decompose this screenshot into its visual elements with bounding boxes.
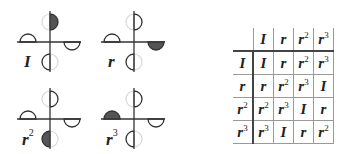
table-row: r3r3Irr2 <box>233 121 334 144</box>
table-cell: r <box>314 98 334 121</box>
figure-label: r3 <box>106 129 118 150</box>
table-cell: r2 <box>294 28 314 51</box>
table-cell <box>233 28 253 51</box>
table-cell: r2 <box>274 75 294 98</box>
table-cell: r <box>274 28 294 51</box>
table-cell: r2 <box>233 98 253 121</box>
table-row: r2r2r3Ir <box>233 98 334 121</box>
table-cell: I <box>253 28 274 51</box>
table-cell: I <box>274 121 294 144</box>
figure-r: r <box>84 0 174 77</box>
figure-label: r <box>108 52 115 72</box>
table-cell: r <box>294 121 314 144</box>
table-cell: r2 <box>294 51 314 75</box>
table-cell: r2 <box>253 98 274 121</box>
figure-label: r2 <box>22 129 34 150</box>
table-cell: r3 <box>274 98 294 121</box>
table-header-row: Irr2r3 <box>233 28 334 51</box>
table-cell: I <box>253 51 274 75</box>
table-cell: r3 <box>233 121 253 144</box>
figure-r3: r3 <box>84 77 174 154</box>
table-cell: r3 <box>253 121 274 144</box>
figure-label: I <box>24 52 31 72</box>
figure-r2: r2 <box>0 77 90 154</box>
table-cell: I <box>314 75 334 98</box>
table-row: rrr2r3I <box>233 75 334 98</box>
table-row: IIrr2r3 <box>233 51 334 75</box>
table-cell: r3 <box>314 28 334 51</box>
table-cell: r <box>274 51 294 75</box>
table-cell: r3 <box>294 75 314 98</box>
figure-I: I <box>0 0 90 77</box>
table-cell: I <box>233 51 253 75</box>
table-cell: I <box>294 98 314 121</box>
table-cell: r2 <box>314 121 334 144</box>
table-cell: r <box>233 75 253 98</box>
table-cell: r3 <box>314 51 334 75</box>
table-cell: r <box>253 75 274 98</box>
cayley-table: Irr2r3IIrr2r3rrr2r3Ir2r2r3Irr3r3Irr2 <box>233 28 334 144</box>
